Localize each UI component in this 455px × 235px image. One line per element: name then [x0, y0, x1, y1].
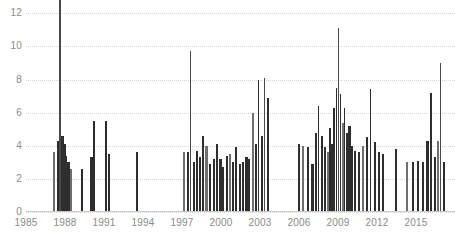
- bar: [333, 108, 334, 212]
- bar: [187, 152, 189, 212]
- bar: [255, 144, 257, 212]
- bar: [232, 162, 234, 212]
- bar: [344, 108, 345, 212]
- bar: [366, 137, 368, 212]
- x-axis-tick-label: 2006: [287, 217, 310, 228]
- bar: [81, 169, 83, 212]
- x-axis-tick-label: 2015: [404, 217, 427, 228]
- bar: [213, 159, 215, 212]
- bar: [311, 164, 313, 212]
- bar: [440, 63, 441, 212]
- bar: [422, 162, 424, 212]
- bar: [202, 136, 204, 212]
- x-axis-tick-label: 1988: [53, 217, 76, 228]
- bar: [108, 154, 110, 212]
- bar: [245, 157, 247, 212]
- y-axis-tick-label: 2: [0, 174, 22, 184]
- bar: [358, 152, 360, 212]
- bar: [395, 149, 397, 212]
- bar: [190, 51, 191, 212]
- y-axis-tick-label: 0: [0, 207, 22, 217]
- bar: [426, 141, 428, 212]
- bar: [354, 151, 356, 212]
- bar: [378, 152, 380, 212]
- y-axis-tick-label: 12: [0, 8, 22, 18]
- bar: [374, 142, 376, 212]
- x-axis-tick-label: 1997: [170, 217, 193, 228]
- bar: [209, 164, 211, 212]
- bar: [239, 164, 241, 212]
- bar: [70, 169, 72, 212]
- y-axis-tick-label: 10: [0, 41, 22, 51]
- x-axis-labels: 1985198819911994199720002003200620092012…: [26, 213, 455, 235]
- bar: [252, 113, 254, 212]
- bar: [105, 121, 107, 212]
- bar: [412, 162, 414, 212]
- bar: [205, 146, 207, 212]
- x-axis-tick-label: 2009: [326, 217, 349, 228]
- y-axis-tick-label: 6: [0, 108, 22, 118]
- bar: [226, 156, 228, 212]
- bar: [430, 93, 431, 212]
- bar: [93, 121, 95, 212]
- bar: [136, 152, 138, 212]
- bar: [267, 98, 268, 212]
- bar: [59, 0, 60, 212]
- bar-series: [26, 0, 455, 212]
- x-axis-tick-label: 1985: [14, 217, 37, 228]
- y-axis-tick-label: 4: [0, 141, 22, 151]
- bar: [434, 157, 436, 212]
- bar: [196, 151, 198, 212]
- plot-area: [26, 0, 455, 212]
- bar: [382, 154, 384, 212]
- bar: [264, 78, 265, 212]
- bar: [318, 106, 319, 212]
- bar: [437, 141, 439, 212]
- x-axis-tick-label: 2000: [209, 217, 232, 228]
- bar: [248, 159, 250, 212]
- bar: [370, 89, 371, 212]
- bar: [406, 162, 408, 212]
- bar: [302, 146, 304, 212]
- bar: [315, 133, 317, 213]
- bar: [235, 147, 237, 212]
- y-axis-tick-label: 8: [0, 75, 22, 85]
- y-axis-labels: 024681012: [0, 0, 22, 212]
- bar: [261, 136, 263, 212]
- bar: [258, 80, 259, 213]
- bar: [443, 162, 445, 212]
- x-axis-tick-label: 1994: [131, 217, 154, 228]
- bar: [222, 167, 224, 212]
- bar: [53, 152, 55, 212]
- bar: [321, 136, 323, 212]
- bar: [216, 144, 218, 212]
- bar: [199, 157, 201, 212]
- bar: [362, 146, 364, 212]
- bar: [417, 161, 419, 212]
- bar: [242, 162, 244, 212]
- bar: [307, 147, 309, 212]
- bar: [298, 144, 300, 212]
- bar: [219, 159, 221, 212]
- bar: [229, 154, 231, 212]
- x-axis-tick-label: 2003: [248, 217, 271, 228]
- bar: [183, 152, 185, 212]
- x-axis-line: [26, 211, 455, 212]
- bar: [351, 146, 353, 212]
- bar-chart: 024681012 198519881991199419972000200320…: [0, 0, 455, 235]
- x-axis-tick-label: 2012: [365, 217, 388, 228]
- x-axis-tick-label: 1991: [92, 217, 115, 228]
